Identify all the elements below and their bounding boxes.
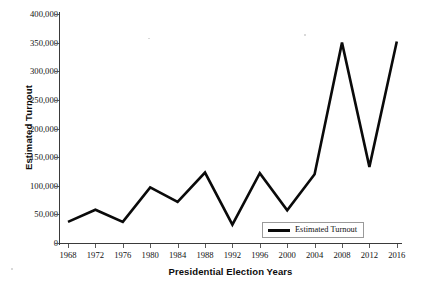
series-line-estimated-turnout [68,41,397,224]
page-speckle [11,268,13,270]
y-axis-tick-mark [55,186,59,187]
y-axis-tick-mark [55,157,59,158]
series-canvas [59,14,400,243]
legend-swatch-estimated-turnout [268,229,290,232]
x-axis-tick-mark [232,244,233,248]
x-axis-title: Presidential Election Years [59,266,402,277]
y-axis-tick-label: 0 [16,239,58,248]
y-axis-tick-label: 150,000 [16,153,58,162]
y-axis-tick-mark [55,243,59,244]
x-axis-tick-mark [205,244,206,248]
chart-legend: Estimated Turnout [262,222,364,238]
x-axis-line [59,243,402,244]
y-axis-tick-mark [55,214,59,215]
y-axis-tick-label: 400,000 [16,10,58,19]
y-axis-tick-label: 350,000 [16,38,58,47]
y-axis-tick-label: 250,000 [16,95,58,104]
x-axis-tick-mark [397,244,398,248]
x-axis-tick-labels: 1968197219761980198419881992199620002004… [0,250,425,264]
x-axis-tick-mark [150,244,151,248]
x-axis-tick-mark [178,244,179,248]
y-axis-tick-mark [55,71,59,72]
y-axis-tick-mark [55,100,59,101]
y-axis-tick-label: 100,000 [16,181,58,190]
x-axis-tick-mark [260,244,261,248]
x-axis-tick-mark [95,244,96,248]
x-axis-tick-mark [369,244,370,248]
y-axis-tick-label: 200,000 [16,124,58,133]
turnout-line-chart: Estimated Turnout 050,000100,000150,0002… [0,0,425,286]
x-axis-tick-mark [68,244,69,248]
y-axis-tick-mark [55,14,59,15]
x-axis-tick-mark [342,244,343,248]
x-axis-tick-mark [287,244,288,248]
y-axis-tick-mark [55,129,59,130]
y-axis-tick-label: 300,000 [16,67,58,76]
x-axis-tick-label: 2016 [377,250,417,261]
y-axis-tick-mark [55,43,59,44]
plot-area [59,14,400,243]
x-axis-tick-mark [123,244,124,248]
legend-label-estimated-turnout: Estimated Turnout [295,225,357,235]
x-axis-tick-mark [315,244,316,248]
y-axis-tick-label: 50,000 [16,210,58,219]
y-axis-tick-labels: 050,000100,000150,000200,000250,000300,0… [16,0,58,286]
